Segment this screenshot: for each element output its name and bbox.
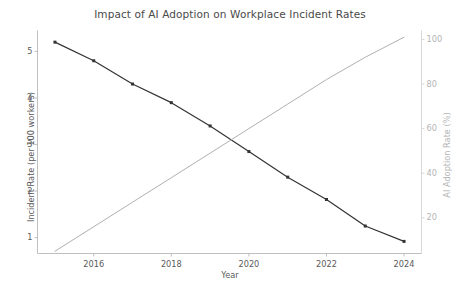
- data-point: [92, 59, 95, 62]
- y-tick-right-80: 80: [427, 79, 455, 89]
- x-tick-2018: 2018: [151, 259, 191, 269]
- x-axis-label: Year: [0, 270, 460, 280]
- data-point: [286, 176, 289, 179]
- y-tick-right-40: 40: [427, 168, 455, 178]
- y-tick-right-60: 60: [427, 123, 455, 133]
- y-tick-left-1: 1: [9, 232, 33, 242]
- y-axis-label-right: AI Adoption Rate (%): [442, 75, 452, 235]
- data-point: [53, 41, 56, 44]
- y-tick-left-4: 4: [9, 93, 33, 103]
- data-point: [325, 198, 328, 201]
- x-tick-2024: 2024: [384, 259, 424, 269]
- plot-area: [0, 0, 460, 287]
- y-tick-right-20: 20: [427, 212, 455, 222]
- chart-figure: Impact of AI Adoption on Workplace Incid…: [0, 0, 460, 287]
- axis-spines: [38, 31, 422, 254]
- data-point: [209, 124, 212, 127]
- data-point: [131, 83, 134, 86]
- y-tick-left-2: 2: [9, 186, 33, 196]
- data-point: [247, 150, 250, 153]
- y-tick-left-3: 3: [9, 139, 33, 149]
- x-tick-2016: 2016: [74, 259, 114, 269]
- x-tick-2022: 2022: [306, 259, 346, 269]
- y-tick-left-5: 5: [9, 46, 33, 56]
- data-point: [403, 240, 406, 243]
- axis-ticks: [35, 39, 425, 256]
- data-point: [364, 225, 367, 228]
- series-1-line: [53, 41, 405, 243]
- y-tick-right-100: 100: [427, 34, 455, 44]
- x-tick-2020: 2020: [229, 259, 269, 269]
- data-point: [170, 101, 173, 104]
